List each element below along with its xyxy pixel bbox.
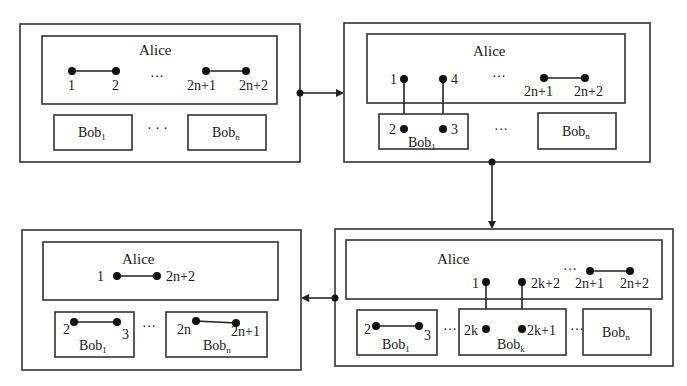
panel-step3: Alice 1 2k+2 ··· 2n+1 2n+2 2 3 Bob1 ··· … [335, 229, 673, 366]
qubit-node [113, 318, 121, 326]
node-label: 2n+2 [620, 276, 649, 291]
alice-label: Alice [122, 251, 155, 267]
alice-box [346, 240, 662, 299]
node-label: 3 [424, 328, 431, 343]
qubit-node [400, 75, 408, 83]
qubit-node [482, 278, 490, 286]
qubit-node [540, 74, 548, 82]
alice-label: Alice [473, 43, 506, 59]
ellipsis: ··· [150, 69, 164, 84]
qubit-node [372, 322, 380, 330]
bob-ellipsis: ··· [443, 322, 457, 337]
node-label: 2n+1 [231, 324, 260, 339]
node-label: 2n [177, 322, 191, 337]
qubit-node [400, 125, 408, 133]
alice-label: Alice [437, 251, 470, 267]
bob-ellipsis: ··· [494, 122, 508, 137]
node-label: 4 [451, 72, 458, 87]
flow-arrow-down [488, 159, 496, 230]
qubit-node [581, 74, 589, 82]
node-label: 3 [451, 122, 458, 137]
alice-box [43, 242, 278, 300]
arrow-down-icon [488, 221, 496, 229]
node-label: 3 [122, 327, 129, 342]
flow-arrow-left [301, 294, 339, 302]
node-label: 2n+2 [574, 84, 603, 99]
node-label: 2n+2 [239, 78, 268, 93]
node-label: 2k [464, 323, 478, 338]
qubit-node [439, 125, 447, 133]
qubit-node [202, 67, 210, 75]
panel-step1: Alice 1 2 ··· 2n+1 2n+2 Bob1 · · · Bobn [20, 24, 300, 162]
qubit-node [113, 272, 121, 280]
qubit-node [439, 75, 447, 83]
node-label: 1 [68, 78, 75, 93]
qubit-node [586, 267, 594, 275]
bob-ellipsis: · · · [147, 121, 168, 136]
qubit-node [192, 317, 200, 325]
qubit-node [242, 67, 250, 75]
node-label: 2k+1 [527, 323, 556, 338]
ellipsis: ··· [563, 262, 577, 277]
alice-label: Alice [139, 42, 172, 58]
qubit-node [415, 322, 423, 330]
entanglement-swapping-diagram: Alice 1 2 ··· 2n+1 2n+2 Bob1 · · · Bobn … [0, 0, 687, 386]
node-label: 2 [389, 122, 396, 137]
node-label: 2n+1 [575, 276, 604, 291]
ellipsis: ··· [492, 69, 506, 84]
arrow-left-icon [301, 294, 309, 302]
panel-step2: Alice 1 4 ··· 2n+1 2n+2 2 3 Bob1 ··· Bob… [344, 23, 650, 162]
node-label: 2n+1 [187, 78, 216, 93]
node-label: 1 [472, 276, 479, 291]
qubit-node [518, 325, 526, 333]
node-label: 2 [364, 322, 371, 337]
node-label: 2k+2 [531, 276, 560, 291]
node-label: 2 [112, 78, 119, 93]
qubit-node [153, 272, 161, 280]
bob-ellipsis: ··· [142, 319, 156, 334]
bob-ellipsis: ··· [570, 322, 584, 337]
qubit-node [70, 318, 78, 326]
qubit-node [112, 67, 120, 75]
node-label: 2n+2 [166, 269, 195, 284]
node-label: 2 [63, 322, 70, 337]
qubit-node [68, 67, 76, 75]
panel-step4: Alice 1 2n+2 2 3 Bob1 ··· 2n 2n+1 Bobn [22, 230, 301, 370]
node-label: 1 [97, 269, 104, 284]
node-label: 1 [390, 72, 397, 87]
qubit-node [626, 267, 634, 275]
qubit-node [518, 278, 526, 286]
qubit-node [482, 325, 490, 333]
arrow-right-icon [336, 89, 344, 97]
node-label: 2n+1 [524, 84, 553, 99]
flow-arrow-right [297, 89, 345, 97]
